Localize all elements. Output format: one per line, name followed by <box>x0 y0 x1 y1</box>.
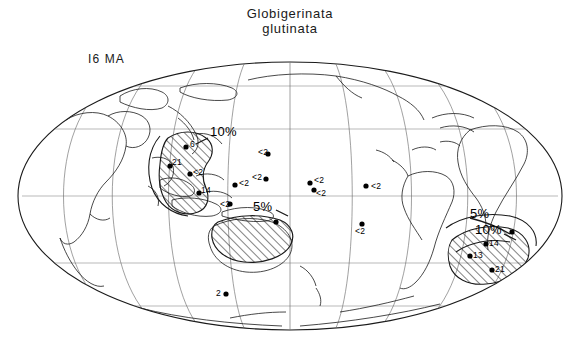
world-map <box>0 0 580 349</box>
point-label: <2 <box>258 147 268 157</box>
sample-dot <box>363 183 368 188</box>
point-label: <2 <box>371 181 381 191</box>
sample-dot <box>187 171 192 176</box>
point-label: <2 <box>252 172 262 182</box>
point-label: 14 <box>489 238 499 248</box>
point-label: 6 <box>190 139 195 149</box>
contour-label-5-coral-sea: 5% <box>253 199 272 214</box>
sample-dot <box>467 253 472 258</box>
sample-dot <box>483 241 488 246</box>
point-label: <2 <box>314 175 324 185</box>
map-svg <box>0 0 580 349</box>
contour-label-5-atlantic: 5% <box>470 206 489 221</box>
sample-dot <box>223 291 228 296</box>
sample-dot <box>263 176 268 181</box>
point-label: 21 <box>172 157 182 167</box>
sample-dot <box>273 219 278 224</box>
point-label: <2 <box>355 226 365 236</box>
point-label: 2 <box>216 288 221 298</box>
point-label: <2 <box>193 167 203 177</box>
sample-dot <box>509 229 514 234</box>
sample-dot <box>183 144 188 149</box>
figure-panel: Globigerinata glutinata I6 MA <box>0 0 580 349</box>
contour-label-10-atlantic: 10% <box>475 222 502 237</box>
sample-dot <box>307 180 312 185</box>
point-label: <2 <box>220 199 230 209</box>
contour-label-10-pacific: 10% <box>210 124 237 139</box>
sample-dot <box>232 182 237 187</box>
point-label: 21 <box>495 264 505 274</box>
hatched-region-coral-sea-tasman <box>212 216 293 263</box>
sample-dot <box>489 267 494 272</box>
point-label: 14 <box>201 185 211 195</box>
point-label: <2 <box>239 178 249 188</box>
point-label: <2 <box>316 188 326 198</box>
point-label: 13 <box>473 250 483 260</box>
